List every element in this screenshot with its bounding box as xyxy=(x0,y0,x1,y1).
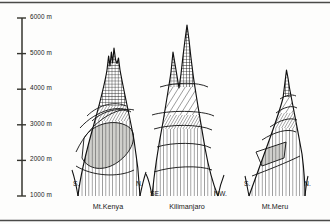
direction-label-kilimanjaro-left: SE. xyxy=(150,190,161,197)
axis-tick-label-3000: 3000 m xyxy=(30,120,52,127)
figure-canvas: 6000 m 5000 m 4000 m 3000 m 2000 m 1000 … xyxy=(0,0,330,224)
axis-tick-label-6000: 6000 m xyxy=(30,13,52,20)
axis-tick-label-2000: 2000 m xyxy=(30,155,52,162)
axis-tick-label-4000: 4000 m xyxy=(30,84,52,91)
direction-label-kenya-left: S. xyxy=(73,180,79,187)
direction-label-meru-right: N. xyxy=(304,180,311,187)
direction-label-meru-left: S. xyxy=(244,180,250,187)
profile-mt-meru xyxy=(242,55,314,200)
profile-mt-kenya xyxy=(70,40,150,200)
mountain-name-kilimanjaro: Kilimanjaro xyxy=(137,202,237,211)
direction-label-kenya-right: N. xyxy=(136,180,143,187)
elevation-axis xyxy=(17,18,26,196)
axis-tick-label-5000: 5000 m xyxy=(30,49,52,56)
axis-tick-label-1000: 1000 m xyxy=(30,191,52,198)
mountain-name-mt-meru: Mt.Meru xyxy=(225,202,325,211)
direction-label-kilimanjaro-right: NW. xyxy=(214,190,227,197)
profile-kilimanjaro xyxy=(145,20,230,200)
